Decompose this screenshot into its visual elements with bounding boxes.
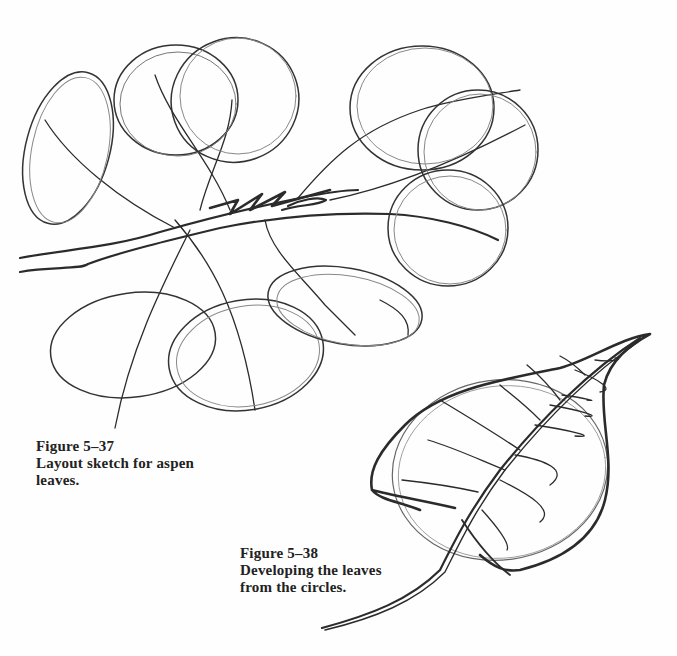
caption-line: Developing the leaves [240, 562, 382, 579]
book-page: Figure 5–37 Layout sketch for aspen leav… [0, 0, 677, 656]
caption-line: from the circles. [240, 579, 382, 596]
figure-number: Figure 5–38 [240, 545, 382, 562]
caption-line: Layout sketch for aspen [36, 455, 194, 472]
caption-line: leaves. [36, 472, 194, 489]
figure-5-37-caption: Figure 5–37 Layout sketch for aspen leav… [36, 438, 194, 489]
figure-5-38-caption: Figure 5–38 Developing the leaves from t… [240, 545, 382, 596]
figure-number: Figure 5–37 [36, 438, 194, 455]
leaf-outline [371, 334, 650, 570]
